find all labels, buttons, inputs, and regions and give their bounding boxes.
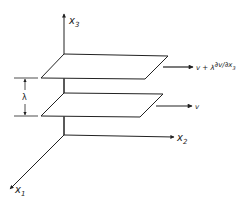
x2-axis-label: x2 [176,132,188,146]
x3-axis-label: x3 [68,15,79,29]
lower-velocity-label: v [195,103,200,111]
shear-flow-diagram: x3 x2 x1 v + λ∂v/∂x3 v λ [0,0,250,203]
upper-plane: v + λ∂v/∂x3 [41,54,236,79]
separation-marker: λ [14,78,38,116]
x1-axis-label: x1 [14,184,25,198]
lambda-label: λ [22,93,27,102]
x1-axis: x1 [10,135,64,198]
upper-velocity-label: v + λ∂v/∂x3 [196,61,236,72]
x2-axis: x2 [64,132,188,146]
lower-plane: v [41,93,200,117]
